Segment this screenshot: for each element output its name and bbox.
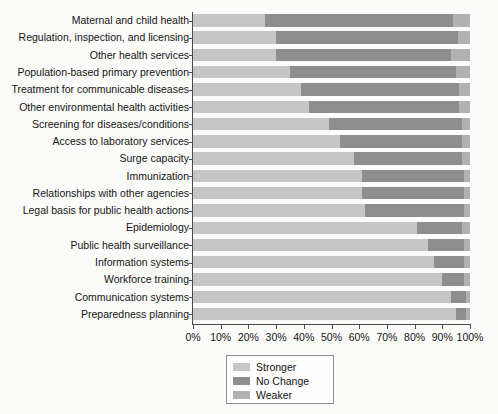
x-axis-tick xyxy=(193,324,194,329)
bar-segment-weaker xyxy=(464,170,470,182)
bar-segment-stronger xyxy=(193,239,428,251)
legend-item: Stronger xyxy=(233,360,328,374)
category-label: Immunization xyxy=(0,170,189,182)
stacked-bar xyxy=(193,152,470,164)
category-label: Other health services xyxy=(0,49,189,61)
bar-segment-weaker xyxy=(464,273,470,285)
stacked-bar xyxy=(193,256,470,268)
x-axis-tick xyxy=(359,324,360,329)
bar-segment-stronger xyxy=(193,14,265,26)
category-label: Preparedness planning xyxy=(0,308,189,320)
category-label: Regulation, inspection, and licensing xyxy=(0,31,189,43)
category-label: Maternal and child health xyxy=(0,14,189,26)
x-axis-tick xyxy=(332,324,333,329)
stacked-bar xyxy=(193,66,470,78)
x-axis-tick xyxy=(221,324,222,329)
bar-segment-weaker xyxy=(453,14,470,26)
stacked-bar xyxy=(193,170,470,182)
bar-row: Screening for diseases/conditions xyxy=(193,116,470,133)
x-axis-tick xyxy=(248,324,249,329)
x-axis-tick xyxy=(276,324,277,329)
bar-segment-weaker xyxy=(466,308,470,320)
category-label: Treatment for communicable diseases xyxy=(0,83,189,95)
stacked-bar xyxy=(193,49,470,61)
bar-segment-weaker xyxy=(451,49,470,61)
x-axis-tick xyxy=(387,324,388,329)
bar-segment-no-change xyxy=(417,222,461,234)
category-label: Legal basis for public health actions xyxy=(0,204,189,216)
bar-segment-no-change xyxy=(276,31,457,43)
bar-segment-stronger xyxy=(193,135,340,147)
x-axis-tick xyxy=(442,324,443,329)
bar-segment-stronger xyxy=(193,118,329,130)
bar-segment-stronger xyxy=(193,170,362,182)
stacked-bar xyxy=(193,14,470,26)
stacked-bar xyxy=(193,273,470,285)
x-axis-tick xyxy=(470,324,471,329)
bar-segment-stronger xyxy=(193,273,442,285)
bar-row: Regulation, inspection, and licensing xyxy=(193,29,470,46)
x-axis-tick xyxy=(304,324,305,329)
bar-row: Other health services xyxy=(193,47,470,64)
bar-row: Legal basis for public health actions xyxy=(193,202,470,219)
bar-segment-no-change xyxy=(428,239,464,251)
bar-row: Other environmental health activities xyxy=(193,98,470,115)
bar-segment-no-change xyxy=(434,256,464,268)
bar-segment-no-change xyxy=(362,170,464,182)
stacked-bar xyxy=(193,118,470,130)
bar-segment-weaker xyxy=(464,204,470,216)
plot-area: Maternal and child healthRegulation, ins… xyxy=(193,12,470,323)
stacked-bar xyxy=(193,222,470,234)
legend-label: Stronger xyxy=(256,362,296,373)
bar-segment-no-change xyxy=(309,101,459,113)
bar-segment-stronger xyxy=(193,291,451,303)
bar-segment-no-change xyxy=(265,14,453,26)
stacked-bar xyxy=(193,204,470,216)
bar-row: Workforce training xyxy=(193,271,470,288)
legend-swatch xyxy=(233,377,250,385)
bar-segment-no-change xyxy=(301,83,459,95)
category-label: Information systems xyxy=(0,256,189,268)
x-axis-tick xyxy=(415,324,416,329)
bar-segment-weaker xyxy=(459,83,470,95)
stacked-bar xyxy=(193,308,470,320)
legend-swatch xyxy=(233,391,250,399)
bar-row: Relationships with other agencies xyxy=(193,185,470,202)
bar-segment-weaker xyxy=(462,152,470,164)
category-label: Workforce training xyxy=(0,273,189,285)
bar-segment-stronger xyxy=(193,66,290,78)
legend-item: Weaker xyxy=(233,388,328,402)
bar-segment-stronger xyxy=(193,187,362,199)
bar-segment-stronger xyxy=(193,204,365,216)
bar-segment-weaker xyxy=(464,239,470,251)
bar-segment-weaker xyxy=(466,291,470,303)
category-label: Surge capacity xyxy=(0,152,189,164)
bar-row: Communication systems xyxy=(193,288,470,305)
bar-row: Preparedness planning xyxy=(193,306,470,323)
bar-segment-stronger xyxy=(193,256,434,268)
bar-row: Maternal and child health xyxy=(193,12,470,29)
stacked-bar xyxy=(193,31,470,43)
bar-segment-stronger xyxy=(193,101,309,113)
legend-label: Weaker xyxy=(256,390,292,401)
bar-segment-weaker xyxy=(464,187,470,199)
bar-segment-weaker xyxy=(458,31,470,43)
bar-segment-weaker xyxy=(462,135,470,147)
category-label: Access to laboratory services xyxy=(0,135,189,147)
category-label: Communication systems xyxy=(0,291,189,303)
bar-segment-stronger xyxy=(193,83,301,95)
bar-segment-weaker xyxy=(456,66,470,78)
bar-segment-no-change xyxy=(340,135,462,147)
bar-segment-no-change xyxy=(329,118,462,130)
bar-segment-stronger xyxy=(193,308,456,320)
bar-segment-stronger xyxy=(193,222,417,234)
bar-row: Public health surveillance xyxy=(193,237,470,254)
legend-swatch xyxy=(233,363,250,371)
bar-segment-stronger xyxy=(193,31,276,43)
legend-item: No Change xyxy=(233,374,328,388)
bar-segment-weaker xyxy=(462,222,470,234)
bar-segment-weaker xyxy=(464,256,470,268)
stacked-bar xyxy=(193,291,470,303)
bar-segment-weaker xyxy=(459,101,470,113)
stacked-bar xyxy=(193,135,470,147)
